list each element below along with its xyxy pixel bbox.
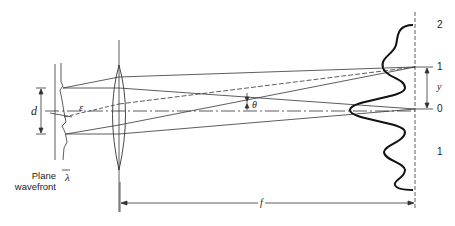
order-label-1-lower: 1 — [437, 147, 443, 157]
diagram-canvas — [0, 0, 455, 226]
intensity-pattern — [350, 25, 413, 190]
order-label-1-upper: 1 — [437, 62, 443, 72]
label-d: d — [31, 105, 37, 117]
label-f: f — [258, 198, 265, 208]
grating-profile — [60, 63, 67, 160]
order-label-2: 2 — [437, 20, 443, 30]
label-epsilon: ε — [79, 102, 83, 113]
plane-wavefront-label: Plane wavefront — [4, 170, 56, 192]
label-lambda: λ — [65, 172, 70, 183]
order-label-0: 0 — [437, 104, 443, 114]
label-theta: θ — [252, 100, 257, 110]
label-y: y — [437, 82, 441, 92]
